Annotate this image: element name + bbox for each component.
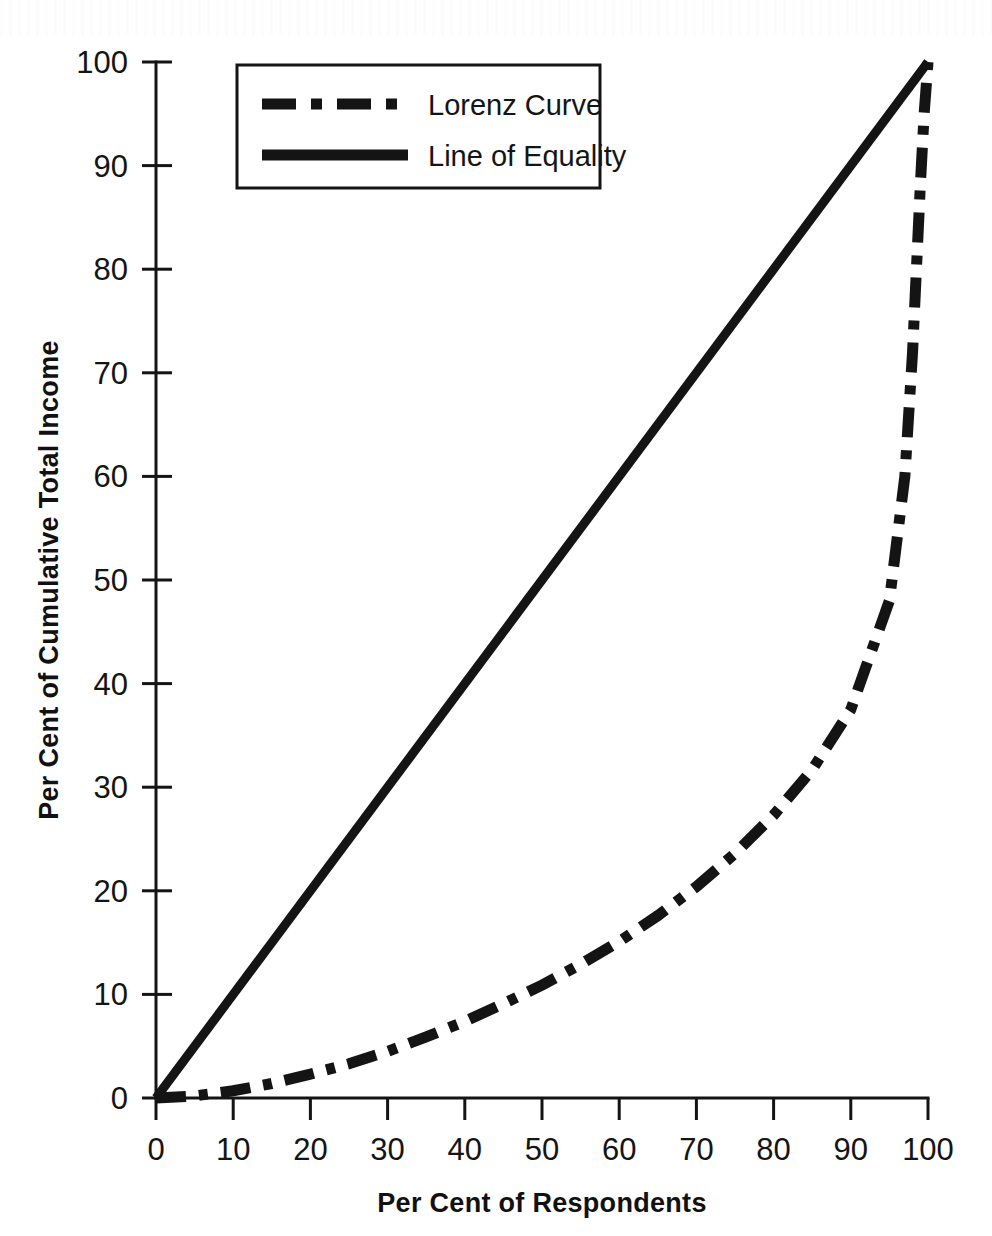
x-tick-label: 50 [525, 1132, 559, 1167]
y-tick-label: 80 [94, 252, 128, 287]
x-tick-labels: 0 10 20 30 40 50 60 70 80 90 100 [147, 1132, 953, 1167]
x-tick-label: 80 [756, 1132, 790, 1167]
y-tick-label: 70 [94, 356, 128, 391]
chart-canvas: 100 90 80 70 60 50 40 30 20 10 0 [0, 0, 992, 1236]
legend-label-line-of-equality: Line of Equality [428, 140, 627, 172]
x-tick-label: 0 [147, 1132, 164, 1167]
y-tick-label: 100 [76, 45, 128, 80]
y-tick-label: 90 [94, 149, 128, 184]
lorenz-curve-figure: 100 90 80 70 60 50 40 30 20 10 0 [0, 0, 992, 1236]
legend: Lorenz Curve Line of Equality [237, 65, 627, 188]
y-tick-label: 30 [94, 770, 128, 805]
legend-label-lorenz-curve: Lorenz Curve [428, 89, 602, 121]
y-tick-label: 0 [111, 1081, 128, 1116]
x-tick-label: 70 [679, 1132, 713, 1167]
x-tick-label: 40 [448, 1132, 482, 1167]
series-line-of-equality [156, 62, 928, 1098]
x-tick-label: 60 [602, 1132, 636, 1167]
x-tick-label: 10 [216, 1132, 250, 1167]
x-tick-label: 100 [902, 1132, 954, 1167]
x-tick-marks [156, 1098, 928, 1120]
x-tick-label: 20 [293, 1132, 327, 1167]
y-tick-labels: 100 90 80 70 60 50 40 30 20 10 0 [76, 45, 128, 1116]
y-tick-label: 50 [94, 563, 128, 598]
y-axis-title: Per Cent of Cumulative Total Income [34, 340, 64, 820]
y-tick-label: 10 [94, 977, 128, 1012]
x-tick-label: 30 [370, 1132, 404, 1167]
y-tick-label: 60 [94, 459, 128, 494]
y-tick-label: 20 [94, 874, 128, 909]
x-tick-label: 90 [834, 1132, 868, 1167]
x-axis-title: Per Cent of Respondents [377, 1188, 706, 1218]
y-tick-label: 40 [94, 667, 128, 702]
